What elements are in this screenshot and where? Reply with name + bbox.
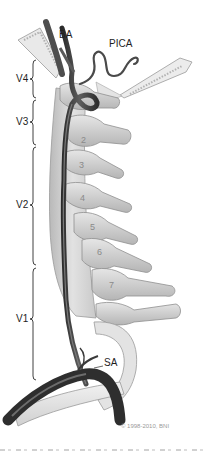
- brace-v1: [30, 268, 36, 380]
- vertebra-number-c4: 4: [80, 194, 85, 203]
- brace-v4: [30, 60, 36, 98]
- label-segment-v4: V4: [16, 74, 28, 84]
- vertebra-number-c7: 7: [109, 281, 114, 290]
- vertebra-number-c3: 3: [79, 161, 84, 170]
- vertebral-artery-illustration: BA PICA SA V4 V3 V2 V1 2 3 4 5 6 7 © 199…: [0, 0, 206, 452]
- anatomy-drawing: [0, 0, 206, 452]
- label-subclavian-artery: SA: [104, 358, 117, 368]
- label-segment-v2: V2: [16, 200, 28, 210]
- vertebra-number-c6: 6: [97, 248, 102, 257]
- copyright-notice: © 1998-2010, BNI: [121, 423, 169, 429]
- brace-v3: [30, 100, 36, 145]
- label-segment-v3: V3: [16, 117, 28, 127]
- vertebra-number-c2: 2: [81, 136, 86, 145]
- caption-cutoff: [0, 446, 206, 452]
- label-pica: PICA: [109, 39, 132, 49]
- sa-leader-line: [94, 366, 103, 368]
- vertebra-number-c5: 5: [90, 223, 95, 232]
- pica-artery: [80, 52, 138, 84]
- segment-braces: [30, 60, 36, 380]
- label-segment-v1: V1: [16, 314, 28, 324]
- brace-v2: [30, 147, 36, 265]
- label-basilar-artery: BA: [59, 30, 72, 40]
